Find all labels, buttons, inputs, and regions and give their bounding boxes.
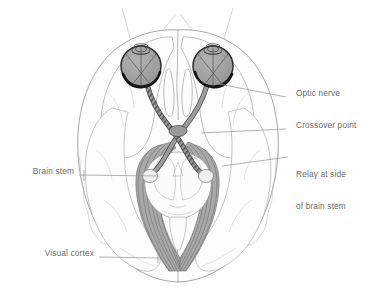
relay-body-right <box>199 170 214 183</box>
label-relay-at-side-of-brain-stem: Relay at side of brain stem <box>296 148 346 232</box>
label-relay-line-2: of brain stem <box>296 201 346 212</box>
label-optic-nerve: Optic nerve <box>296 88 340 99</box>
label-relay-line-1: Relay at side <box>296 169 346 180</box>
label-crossover-point: Crossover point <box>296 120 356 131</box>
label-brain-stem: Brain stem <box>12 166 74 177</box>
visual-pathway-diagram: Optic nerve Crossover point Relay at sid… <box>0 0 384 292</box>
label-visual-cortex: Visual cortex <box>22 248 94 259</box>
optic-chiasm <box>169 125 187 137</box>
